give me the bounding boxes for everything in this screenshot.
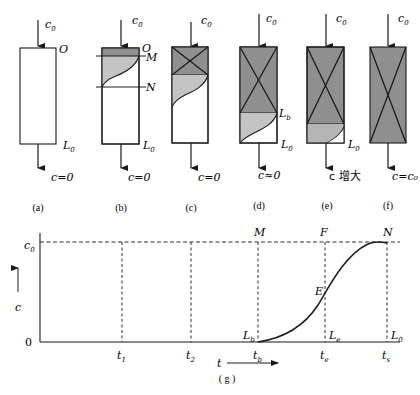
x-tick-t1: t1 bbox=[117, 349, 126, 364]
inlet-label: c0 bbox=[398, 12, 409, 27]
outlet-label: c=0 bbox=[128, 171, 150, 184]
outlet-label: c≈0 bbox=[258, 169, 280, 182]
column-a: c0 O L0 c=0 (a) bbox=[20, 18, 75, 214]
caption-g: ( g ) bbox=[219, 373, 236, 385]
caption-e: (e) bbox=[321, 200, 332, 212]
point-L0: L0 bbox=[390, 329, 403, 344]
label-N: N bbox=[145, 81, 156, 94]
label-M: M bbox=[145, 51, 158, 64]
y-tick-c0: c0 bbox=[24, 239, 35, 254]
caption-f: (f) bbox=[383, 200, 393, 212]
column-bed bbox=[20, 48, 56, 144]
point-E: E bbox=[314, 285, 323, 298]
bottom-label: L0 bbox=[347, 138, 360, 153]
outlet-label: c=0 bbox=[51, 171, 73, 184]
adsorption-diagram: c0 O L0 c=0 (a) c0 O M N L0 c=0 (b) c0 bbox=[0, 0, 420, 395]
y-axis-label: c bbox=[15, 301, 21, 314]
inlet-label: c0 bbox=[336, 12, 347, 27]
column-d: c0 Lb L0 c≈0 (d) bbox=[240, 12, 293, 212]
breakthrough-chart: c0 0 c M F N E Lb Le L0 t1 t2 tb te ts t… bbox=[15, 226, 403, 385]
x-tick-tb: tb bbox=[253, 349, 262, 364]
column-c: c0 c=0 (c) bbox=[172, 14, 220, 214]
top-label: O bbox=[59, 43, 68, 56]
bottom-label: L0 bbox=[280, 138, 293, 153]
caption-a: (a) bbox=[32, 202, 43, 214]
inlet-label: c0 bbox=[266, 12, 277, 27]
inlet-label: c0 bbox=[45, 18, 56, 33]
x-tick-te: te bbox=[320, 349, 329, 364]
point-N: N bbox=[382, 226, 393, 239]
column-b: c0 O M N L0 c=0 (b) bbox=[96, 14, 158, 214]
x-axis-label: t bbox=[217, 357, 222, 370]
y-tick-0: 0 bbox=[25, 336, 32, 349]
column-f: c0 c=c₀ (f) bbox=[370, 12, 419, 212]
inlet-label: c0 bbox=[201, 14, 212, 29]
bottom-label: L0 bbox=[142, 139, 155, 154]
saturated-zone bbox=[102, 48, 139, 56]
outlet-label: c 增大 bbox=[329, 169, 361, 183]
inlet-label: c0 bbox=[132, 14, 143, 29]
caption-b: (b) bbox=[115, 202, 127, 214]
caption-c: (c) bbox=[185, 202, 196, 214]
point-F: F bbox=[319, 226, 328, 239]
side-label-Lb: Lb bbox=[278, 107, 291, 122]
x-tick-ts: ts bbox=[382, 349, 390, 364]
x-tick-t2: t2 bbox=[186, 349, 195, 364]
point-Lb: Lb bbox=[242, 329, 255, 344]
outlet-label: c=0 bbox=[198, 171, 220, 184]
outlet-label: c=c₀ bbox=[392, 170, 419, 183]
column-e: c0 L0 c 增大 (e) bbox=[307, 12, 361, 212]
point-M: M bbox=[253, 226, 266, 239]
caption-d: (d) bbox=[253, 200, 265, 212]
bottom-label: L0 bbox=[62, 139, 75, 154]
point-Le: Le bbox=[328, 329, 340, 344]
